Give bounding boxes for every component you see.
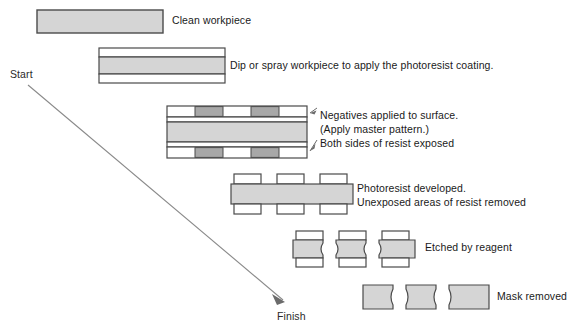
stage-1-caption: Clean workpiece	[172, 14, 251, 28]
stage-3-workpiece-graphic	[167, 106, 317, 158]
stage-6-workpiece-graphic	[363, 285, 489, 309]
stage-2-caption: Dip or spray workpiece to apply the phot…	[230, 59, 494, 73]
finish-label: Finish	[277, 310, 306, 322]
stage-2-workpiece-graphic	[99, 48, 225, 83]
stage-4-caption-line-2: Unexposed areas of resist removed	[357, 196, 526, 210]
stage-3-caption-line-2: (Apply master pattern.)	[320, 123, 429, 137]
stage-5-caption: Etched by reagent	[425, 241, 512, 255]
stage-5-workpiece-graphic	[293, 231, 415, 267]
stage-3-caption-line-3: Both sides of resist exposed	[320, 137, 454, 151]
stage-6-caption: Mask removed	[497, 290, 567, 304]
stage-4-caption-line-1: Photoresist developed.	[357, 182, 466, 196]
start-label: Start	[10, 68, 33, 80]
diagram-graphics	[0, 0, 582, 330]
stage-1-workpiece-graphic	[37, 10, 163, 33]
stage-4-workpiece-graphic	[231, 174, 353, 214]
stage-3-caption-line-1: Negatives applied to surface.	[320, 109, 458, 123]
process-diagram: Clean workpiece Dip or spray workpiece t…	[0, 0, 582, 330]
